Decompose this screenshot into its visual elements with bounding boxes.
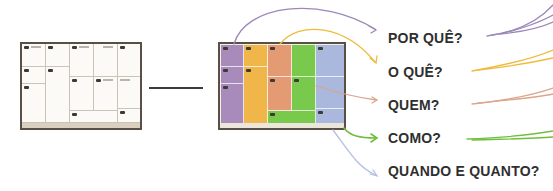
arrow-quem — [316, 86, 376, 100]
arrow-como — [344, 128, 376, 138]
arrow-por-que — [234, 8, 375, 44]
label-quando-e-quanto: QUANDO E QUANTO? — [388, 163, 540, 179]
label-o-que: O QUÊ? — [388, 64, 443, 80]
swoosh-salmon — [478, 94, 553, 103]
swoosh-yellow — [478, 58, 553, 70]
label-quem: QUEM? — [388, 97, 440, 113]
label-como: COMO? — [388, 130, 441, 146]
arrow-quando — [333, 130, 376, 175]
arrow-o-que — [280, 29, 375, 62]
label-por-que: POR QUÊ? — [388, 30, 463, 46]
